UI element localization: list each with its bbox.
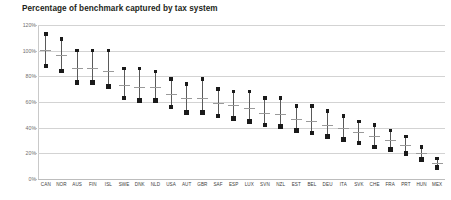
lower-estimate-marker — [357, 141, 362, 146]
upper-estimate-marker — [435, 157, 438, 160]
central-estimate-marker — [400, 145, 411, 146]
data-series-group — [210, 25, 226, 179]
lower-estimate-marker — [200, 110, 205, 115]
central-estimate-marker — [56, 55, 67, 56]
data-series-group — [147, 25, 163, 179]
upper-estimate-marker — [357, 120, 360, 123]
central-estimate-marker — [213, 103, 224, 104]
range-line — [249, 92, 250, 122]
upper-estimate-marker — [342, 114, 345, 117]
lower-estimate-marker — [247, 119, 252, 124]
central-estimate-marker — [385, 140, 396, 141]
upper-estimate-marker — [420, 145, 423, 148]
central-estimate-marker — [432, 163, 443, 164]
lower-estimate-marker — [137, 98, 142, 103]
data-series-group — [100, 25, 116, 179]
lower-estimate-marker — [184, 110, 189, 115]
central-estimate-marker — [72, 68, 83, 69]
lower-estimate-marker — [404, 151, 409, 156]
central-estimate-marker — [134, 87, 145, 88]
upper-estimate-marker — [107, 49, 110, 52]
upper-estimate-marker — [373, 123, 376, 126]
y-axis-tick-label: 100% — [2, 48, 36, 54]
lower-estimate-marker — [310, 131, 315, 136]
gridline — [38, 179, 445, 180]
central-estimate-marker — [275, 114, 286, 115]
central-estimate-marker — [259, 113, 270, 114]
plot-area — [38, 25, 445, 179]
lower-estimate-marker — [294, 128, 299, 133]
y-axis-tick-mark — [34, 102, 37, 103]
upper-estimate-marker — [122, 67, 125, 70]
data-series-group — [69, 25, 85, 179]
y-axis-tick-mark — [34, 51, 37, 52]
lower-estimate-marker — [90, 80, 95, 85]
upper-estimate-marker — [44, 32, 47, 35]
central-estimate-marker — [197, 98, 208, 99]
upper-estimate-marker — [248, 90, 251, 93]
x-axis-tick-label: MEX — [425, 182, 449, 187]
data-series-group — [116, 25, 132, 179]
data-series-group — [194, 25, 210, 179]
y-axis-tick-label: 120% — [2, 22, 36, 28]
upper-estimate-marker — [185, 82, 188, 85]
data-series-group — [53, 25, 69, 179]
y-axis-tick-label: 40% — [2, 125, 36, 131]
data-series-group — [85, 25, 101, 179]
y-axis-tick-label: 0% — [2, 176, 36, 182]
upper-estimate-marker — [75, 49, 78, 52]
y-axis-tick-mark — [34, 179, 37, 180]
range-line — [296, 106, 297, 130]
range-line — [311, 106, 312, 133]
y-axis-tick-mark — [34, 153, 37, 154]
data-series-group — [382, 25, 398, 179]
central-estimate-marker — [291, 119, 302, 120]
data-series-group — [257, 25, 273, 179]
upper-estimate-marker — [295, 104, 298, 107]
range-line — [202, 79, 203, 112]
central-estimate-marker — [322, 125, 333, 126]
lower-estimate-marker — [419, 157, 424, 162]
data-series-group — [132, 25, 148, 179]
upper-estimate-marker — [310, 104, 313, 107]
lower-estimate-marker — [263, 123, 268, 128]
data-series-group — [414, 25, 430, 179]
upper-estimate-marker — [138, 67, 141, 70]
central-estimate-marker — [338, 128, 349, 129]
central-estimate-marker — [369, 136, 380, 137]
lower-estimate-marker — [435, 165, 440, 170]
upper-estimate-marker — [326, 109, 329, 112]
upper-estimate-marker — [404, 135, 407, 138]
range-line — [108, 51, 109, 87]
range-line — [92, 51, 93, 83]
central-estimate-marker — [40, 50, 51, 51]
lower-estimate-marker — [278, 124, 283, 129]
chart-title: Percentage of benchmark captured by tax … — [22, 4, 218, 13]
data-series-group — [367, 25, 383, 179]
lower-estimate-marker — [216, 114, 221, 119]
upper-estimate-marker — [232, 90, 235, 93]
lower-estimate-marker — [106, 84, 111, 89]
range-line — [264, 98, 265, 125]
central-estimate-marker — [353, 132, 364, 133]
lower-estimate-marker — [388, 147, 393, 152]
data-series-group — [241, 25, 257, 179]
lower-estimate-marker — [325, 134, 330, 139]
central-estimate-marker — [306, 121, 317, 122]
range-line — [139, 69, 140, 101]
central-estimate-marker — [416, 153, 427, 154]
upper-estimate-marker — [389, 129, 392, 132]
data-series-group — [320, 25, 336, 179]
upper-estimate-marker — [91, 49, 94, 52]
data-series-group — [335, 25, 351, 179]
lower-estimate-marker — [231, 116, 236, 121]
lower-estimate-marker — [372, 145, 377, 150]
data-series-group — [304, 25, 320, 179]
upper-estimate-marker — [60, 37, 63, 40]
y-axis-ticks: 120%100%80%60%40%20%0% — [0, 25, 36, 179]
y-axis-tick-label: 80% — [2, 73, 36, 79]
range-line — [77, 51, 78, 83]
upper-estimate-marker — [169, 77, 172, 80]
central-estimate-marker — [181, 98, 192, 99]
lower-estimate-marker — [341, 137, 346, 142]
